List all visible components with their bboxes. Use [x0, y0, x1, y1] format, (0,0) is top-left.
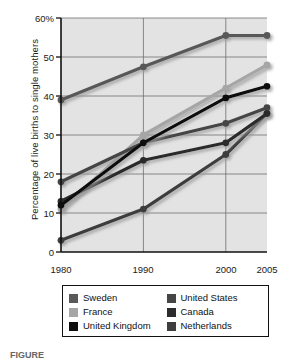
- data-point: [140, 132, 147, 139]
- legend-label: Canada: [181, 307, 214, 317]
- legend-item: Netherlands: [167, 319, 263, 333]
- data-point: [140, 139, 147, 146]
- chart-plot-area: [0, 0, 292, 262]
- figure-caption: FIGURE: [10, 350, 285, 360]
- data-point: [222, 85, 229, 92]
- legend-swatch-icon: [69, 294, 78, 303]
- legend-swatch-icon: [69, 308, 78, 317]
- data-point: [140, 63, 147, 70]
- legend-item: France: [69, 305, 165, 319]
- legend-label: Sweden: [83, 293, 117, 303]
- legend-swatch-icon: [167, 322, 176, 331]
- data-point: [222, 95, 229, 102]
- data-point: [222, 151, 229, 158]
- data-point: [140, 157, 147, 164]
- x-tick-label: 1990: [132, 264, 153, 275]
- legend-label: United Kingdom: [83, 321, 151, 331]
- legend-item: Canada: [167, 305, 263, 319]
- legend-label: France: [83, 307, 113, 317]
- legend-item: Sweden: [69, 291, 165, 305]
- x-tick-label: 2000: [215, 264, 236, 275]
- chart-legend: SwedenUnited StatesFranceCanadaUnited Ki…: [62, 285, 269, 337]
- data-point: [222, 120, 229, 127]
- legend-items: SwedenUnited StatesFranceCanadaUnited Ki…: [63, 291, 268, 333]
- data-point: [140, 206, 147, 213]
- data-point: [222, 32, 229, 39]
- x-tick-label: 1980: [50, 264, 71, 275]
- data-point: [264, 104, 271, 111]
- legend-label: United States: [181, 293, 238, 303]
- data-point: [264, 83, 271, 90]
- data-point: [264, 61, 271, 68]
- legend-item: United States: [167, 291, 263, 305]
- figure: Percentage of live births to single moth…: [0, 0, 292, 360]
- data-point: [264, 110, 271, 117]
- data-point: [264, 32, 271, 39]
- data-point: [222, 139, 229, 146]
- legend-swatch-icon: [69, 322, 78, 331]
- legend-label: Netherlands: [181, 321, 232, 331]
- legend-swatch-icon: [167, 308, 176, 317]
- x-tick-label: 2005: [256, 264, 277, 275]
- legend-item: United Kingdom: [69, 319, 165, 333]
- legend-swatch-icon: [167, 294, 176, 303]
